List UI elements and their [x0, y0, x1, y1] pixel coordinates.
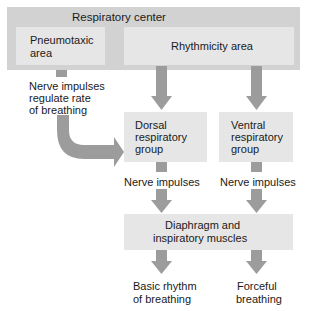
arrow-right-to-diaphragm [246, 200, 267, 213]
arrow-to-ventral [246, 96, 267, 110]
dorsal-line3: group [135, 143, 163, 156]
arrow-to-basic-rhythm [151, 261, 172, 274]
pneumotaxic-stub [56, 70, 67, 77]
nerve-impulses-left: Nerve impulses [124, 176, 200, 189]
forceful-line1: Forceful [237, 280, 277, 293]
regulate-note-line2: regulate rate [29, 92, 91, 105]
forceful-line2: breathing [236, 293, 282, 306]
dorsal-respiratory-group-box: Dorsal respiratory group [124, 112, 207, 162]
arrow-to-forceful [246, 261, 267, 274]
regulate-note-line3: of breathing [29, 104, 87, 117]
dorsal-line2: respiratory [135, 131, 187, 144]
arrow-left-to-diaphragm [151, 200, 172, 213]
diaphragm-box: Diaphragm and inspiratory muscles [124, 214, 293, 250]
curved-arrow-to-dorsal [57, 115, 124, 167]
basic-rhythm-line2: of breathing [133, 293, 191, 306]
dorsal-line1: Dorsal [135, 119, 167, 132]
nerve-impulses-right: Nerve impulses [220, 176, 296, 189]
ventral-line1: Ventral [231, 119, 265, 132]
basic-rhythm-line1: Basic rhythm [133, 280, 197, 293]
ventral-respiratory-group-box: Ventral respiratory group [219, 112, 293, 162]
arrow-to-dorsal [151, 96, 172, 110]
diaphragm-line2: inspiratory muscles [153, 232, 247, 245]
ventral-line2: respiratory [231, 131, 283, 144]
regulate-note-line1: Nerve impulses [29, 80, 105, 93]
diaphragm-line1: Diaphragm and [165, 219, 240, 232]
ventral-line3: group [231, 143, 259, 156]
